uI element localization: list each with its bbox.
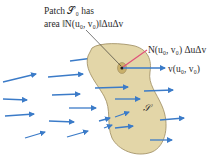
patch-label-line1: Patch 𝒮₀ has: [44, 6, 94, 16]
flux-diagram: Patch 𝒮₀ has area ‖N(u₀, v₀)‖ΔuΔv N(u₀, …: [0, 0, 218, 158]
normal-label: N(u₀, v₀) ΔuΔv: [148, 45, 206, 56]
field-label: v(u₀, v₀): [168, 64, 200, 75]
patch-label-line2: area ‖N(u₀, v₀)‖ΔuΔv: [44, 19, 124, 30]
